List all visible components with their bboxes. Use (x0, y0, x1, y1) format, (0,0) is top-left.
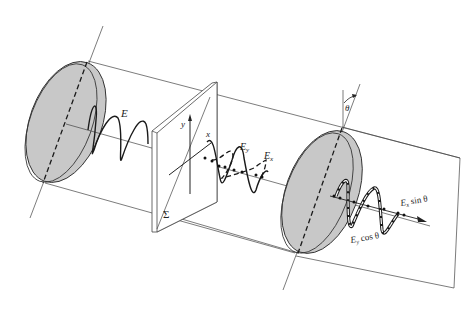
birefringent-plate (152, 82, 217, 232)
label-incident-field: E (120, 107, 128, 119)
label-output-y: Ey cos θ (349, 230, 380, 246)
label-axis-y: y (180, 119, 185, 129)
wave-ex (212, 151, 266, 178)
propagation-arrow-icon (417, 216, 427, 222)
label-output-x: Ex sin θ (399, 193, 429, 209)
label-component-y: Ey (239, 141, 250, 154)
polarization-diagram: E Σ y x Ey Ex θ Ex sin θ Ey cos θ (0, 0, 473, 309)
label-angle: θ (345, 103, 350, 113)
label-plate: Σ (163, 208, 169, 220)
beam-envelope (45, 61, 460, 288)
polarizer-disk (11, 50, 122, 193)
label-axis-x: x (205, 129, 210, 139)
